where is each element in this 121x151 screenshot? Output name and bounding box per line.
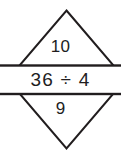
top-number: 10 — [0, 38, 121, 55]
bottom-number: 9 — [0, 100, 121, 117]
band-expression: 36 ÷ 4 — [0, 70, 121, 89]
diamond-lower-triangle — [14, 87, 120, 149]
math-diamond-figure: 10 36 ÷ 4 9 — [0, 0, 121, 151]
